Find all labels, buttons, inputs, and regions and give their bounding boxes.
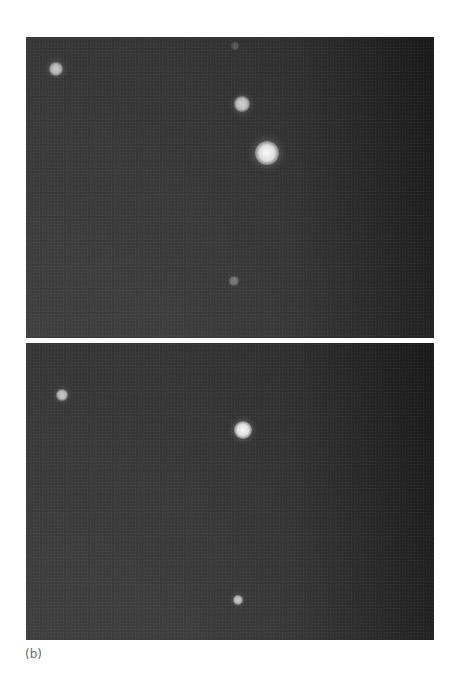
fluorescent-spot (234, 421, 252, 439)
fluorescent-spot (56, 389, 68, 401)
fluorescent-spot (234, 96, 250, 112)
fluorescent-spot (231, 42, 239, 50)
fluorescent-spot (233, 595, 243, 605)
fluorescent-spot (49, 62, 63, 76)
micrograph-panel-top (26, 37, 434, 338)
figure-caption: (b) (25, 647, 42, 661)
fluorescent-spot (255, 141, 279, 165)
micrograph-panel-bottom (26, 343, 434, 640)
fluorescent-spot (229, 276, 239, 286)
